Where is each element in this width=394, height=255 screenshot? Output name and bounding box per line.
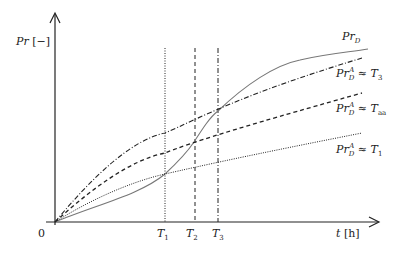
legend-prd-sub: D (355, 37, 361, 45)
y-axis-label-unit: [−] (32, 35, 50, 48)
legend-prd: PrD (342, 31, 360, 45)
origin-label: 0 (38, 228, 45, 239)
legend-t3-tsub: 3 (378, 74, 382, 82)
legend-prd-main: Pr (342, 30, 355, 43)
curve-approx-t1 (55, 133, 362, 222)
legend-t1-sup: A (349, 142, 354, 150)
legend-approx-taa: PrDA ≈ Taa (336, 102, 386, 117)
legend-approx-t3: PrDA ≈ T3 (336, 67, 382, 82)
legend-approx-t1: PrDA ≈ T1 (336, 143, 382, 158)
x-axis-label: t [h] (336, 228, 360, 239)
tick-t1-sub: 1 (164, 234, 168, 242)
y-axis-label: Pr [−] (16, 36, 50, 47)
legend-t1-main: Pr (336, 143, 349, 156)
x-axis-label-unit: [h] (344, 227, 360, 240)
legend-taa-sup: A (349, 101, 354, 109)
legend-taa-sub: D (349, 109, 355, 117)
tick-t1: T1 (157, 228, 169, 242)
legend-t1-approx: ≈ T (358, 143, 378, 156)
chart-canvas (0, 0, 394, 255)
legend-t3-sup: A (349, 66, 354, 74)
legend-taa-tsub: aa (378, 109, 386, 117)
legend-taa-approx: ≈ T (358, 102, 378, 115)
tick-t3: T3 (212, 228, 224, 242)
y-axis-label-main: Pr (16, 35, 29, 48)
legend-taa-main: Pr (336, 102, 349, 115)
legend-t3-main: Pr (336, 67, 349, 80)
curve-approx-t3 (55, 58, 362, 222)
tick-t3-sub: 3 (219, 234, 223, 242)
legend-t1-tsub: 1 (378, 150, 382, 158)
curve-approx-taa (55, 93, 362, 222)
tick-t2: T2 (186, 228, 198, 242)
legend-t1-sub: D (349, 150, 355, 158)
tick-t2-sub: 2 (193, 234, 197, 242)
legend-t3-sub: D (349, 74, 355, 82)
legend-t3-approx: ≈ T (358, 67, 378, 80)
x-axis-label-main: t (336, 227, 340, 240)
